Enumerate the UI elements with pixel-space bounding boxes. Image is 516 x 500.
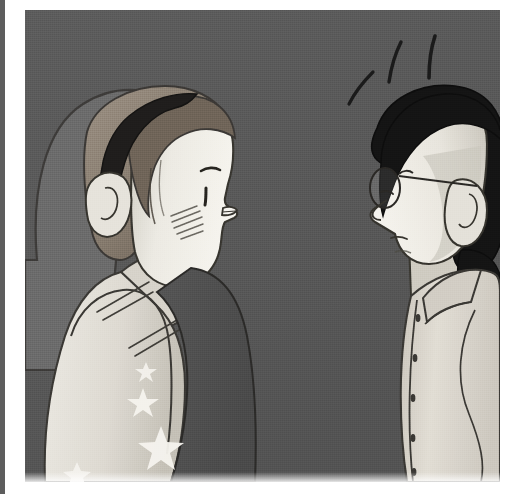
- button: [413, 354, 418, 362]
- button: [416, 314, 421, 322]
- button: [411, 394, 416, 402]
- right-ear: [445, 179, 487, 246]
- illustration-page: Grayscale comic panel: two people face e…: [0, 0, 516, 500]
- panel-artwork: [25, 10, 500, 482]
- left-ear: [86, 173, 132, 237]
- adjacent-panel-edge-rule: [0, 0, 5, 494]
- comic-panel: [25, 10, 500, 482]
- left-figure: [25, 86, 256, 482]
- button: [412, 468, 417, 476]
- button: [411, 434, 416, 442]
